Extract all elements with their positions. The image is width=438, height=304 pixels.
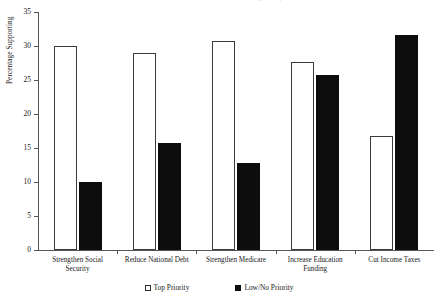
x-tick [196,250,197,254]
y-tick: 20 [34,114,39,115]
bar [158,143,181,250]
category-label-line: Reduce National Debt [111,256,202,265]
category-label-line: Funding [270,265,361,274]
category-label-line: Cut Income Taxes [349,256,438,265]
legend-label: Low/No Priority [244,283,293,292]
y-tick: 25 [34,80,39,81]
y-tick: 5 [34,216,39,217]
x-axis-line [38,250,434,251]
bar-group [370,12,418,250]
chart-figure: Public Priorities for the Federal Budget… [0,0,438,304]
y-tick: 0 [34,250,39,251]
x-tick [276,250,277,254]
y-tick: 35 [34,12,39,13]
bar-group [54,12,102,250]
category-label: Increase EducationFunding [270,256,361,275]
y-tick: 30 [34,46,39,47]
y-tick-label: 5 [27,211,31,221]
category-label-line: Strengthen Social [32,256,123,265]
y-tick: 15 [34,148,39,149]
bar [395,35,418,250]
y-axis-line [38,12,39,250]
y-tick-label: 10 [24,177,32,187]
x-tick [117,250,118,254]
category-label: Strengthen Medicare [190,256,281,265]
category-label-line: Security [32,265,123,274]
y-tick-label: 25 [24,75,32,85]
bar [237,163,260,250]
y-tick-label: 35 [24,7,32,17]
bar [212,41,235,250]
bar [79,182,102,250]
bar-group [291,12,339,250]
bar-group [212,12,260,250]
legend-swatch-icon [145,285,151,291]
bar [370,136,393,250]
y-axis-label: Percentage Supporting [6,0,14,84]
bar-group [133,12,181,250]
bar [291,62,314,250]
y-tick-label: 20 [24,109,32,119]
category-label-line: Increase Education [270,256,361,265]
chart-title: Public Priorities for the Federal Budget… [0,0,438,1]
category-label: Reduce National Debt [111,256,202,265]
chart-legend: Top PriorityLow/No Priority [0,283,438,292]
category-label: Cut Income Taxes [349,256,438,265]
legend-swatch-icon [235,285,241,291]
bar [133,53,156,250]
legend-item[interactable]: Low/No Priority [235,283,293,292]
legend-label: Top Priority [154,283,190,292]
bar [54,46,77,250]
category-label-line: Strengthen Medicare [190,256,281,265]
y-tick-label: 0 [27,245,31,255]
y-tick: 10 [34,182,39,183]
x-tick [355,250,356,254]
bar [316,75,339,250]
legend-item[interactable]: Top Priority [145,283,190,292]
plot-area: 05101520253035 Strengthen SocialSecurity… [38,12,434,250]
y-tick-label: 15 [24,143,32,153]
y-tick-label: 30 [24,41,32,51]
category-label: Strengthen SocialSecurity [32,256,123,275]
